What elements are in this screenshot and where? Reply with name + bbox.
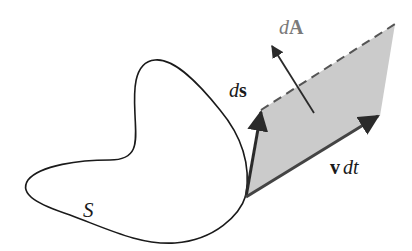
surface-s-label: S (83, 198, 94, 222)
area-parallelogram (246, 24, 395, 197)
closed-curve-s (26, 60, 248, 243)
vdt-label: vdt (330, 156, 359, 178)
ds-label: ds (229, 79, 247, 101)
surface-flux-diagram: ds dA vdt S (0, 0, 412, 251)
dA-label: dA (279, 16, 304, 38)
